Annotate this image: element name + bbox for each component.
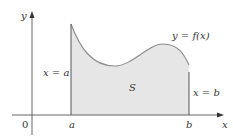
curve-label: y = f(x) [172, 31, 210, 41]
a-tick-label: a [69, 120, 75, 130]
arrow-up-icon [30, 11, 35, 18]
region-label: S [129, 83, 136, 93]
arrow-right-icon [217, 113, 224, 118]
b-tick-label: b [186, 120, 192, 130]
origin-label: 0 [22, 120, 28, 130]
right-bound-label: x = b [193, 88, 220, 98]
x-axis-label: x [222, 120, 228, 130]
y-axis-label: y [21, 11, 27, 21]
diagram-canvas [0, 0, 233, 140]
left-bound-label: x = a [43, 68, 69, 78]
